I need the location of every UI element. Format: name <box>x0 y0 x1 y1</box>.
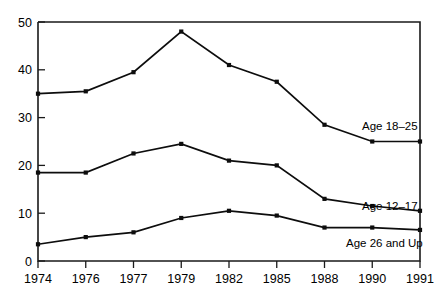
data-point <box>131 70 135 74</box>
y-tick-label-10: 10 <box>18 207 32 221</box>
x-tick-label-1991: 1991 <box>406 272 434 286</box>
data-point <box>131 230 135 234</box>
data-point <box>322 123 326 127</box>
data-point <box>227 63 231 67</box>
series-label-age-12-17: Age 12–17 <box>362 200 418 212</box>
data-point <box>370 225 374 229</box>
y-tick-label-30: 30 <box>18 111 32 125</box>
x-tick-label-1985: 1985 <box>263 272 291 286</box>
series-label-age-26-and-up: Age 26 and Up <box>346 237 423 249</box>
data-point <box>36 170 40 174</box>
x-tick-label-1988: 1988 <box>311 272 339 286</box>
data-point <box>179 142 183 146</box>
data-point <box>418 228 422 232</box>
data-point <box>179 29 183 33</box>
y-tick-label-50: 50 <box>18 16 32 30</box>
data-point <box>36 242 40 246</box>
data-point <box>131 151 135 155</box>
x-tick-label-1977: 1977 <box>120 272 148 286</box>
data-point <box>227 209 231 213</box>
data-point <box>418 209 422 213</box>
y-tick-label-40: 40 <box>18 63 32 77</box>
x-tick-label-1979: 1979 <box>167 272 195 286</box>
series-layer <box>36 29 422 246</box>
plot-frame <box>38 22 420 261</box>
data-point <box>36 92 40 96</box>
x-tick-label-1976: 1976 <box>72 272 100 286</box>
data-point <box>84 235 88 239</box>
data-point <box>322 197 326 201</box>
line-chart: 0 10 20 30 40 50 1974 1976 1977 1979 198… <box>0 0 438 291</box>
data-point <box>370 139 374 143</box>
data-point <box>84 89 88 93</box>
y-tick-label-0: 0 <box>25 255 32 269</box>
x-axis-labels: 1974 1976 1977 1979 1982 1985 1988 1990 … <box>24 272 434 286</box>
data-point <box>84 170 88 174</box>
x-tick-label-1990: 1990 <box>358 272 386 286</box>
data-point <box>227 159 231 163</box>
data-point <box>179 216 183 220</box>
y-tick-label-20: 20 <box>18 159 32 173</box>
data-point <box>275 213 279 217</box>
data-point <box>418 139 422 143</box>
data-point <box>322 225 326 229</box>
y-axis-ticks <box>38 22 45 261</box>
chart-canvas: 0 10 20 30 40 50 1974 1976 1977 1979 198… <box>0 0 438 291</box>
data-point <box>275 163 279 167</box>
data-point <box>275 80 279 84</box>
x-tick-label-1982: 1982 <box>215 272 243 286</box>
x-axis-ticks <box>38 261 420 268</box>
series-label-age-18-25: Age 18–25 <box>362 120 418 132</box>
x-tick-label-1974: 1974 <box>24 272 52 286</box>
y-axis-labels: 0 10 20 30 40 50 <box>18 16 32 269</box>
